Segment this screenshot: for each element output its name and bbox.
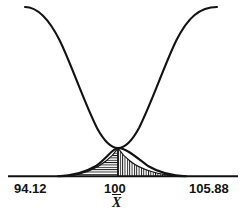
x-bar-symbol: X: [112, 194, 121, 210]
axis-tick-label-left: 94.12: [14, 181, 47, 196]
distribution-figure: 94.12 100 105.88 X: [0, 0, 248, 213]
axis-tick-label-right: 105.88: [189, 181, 229, 196]
axis-variable-label: X: [112, 194, 121, 210]
left-tail-curve: [25, 7, 186, 176]
